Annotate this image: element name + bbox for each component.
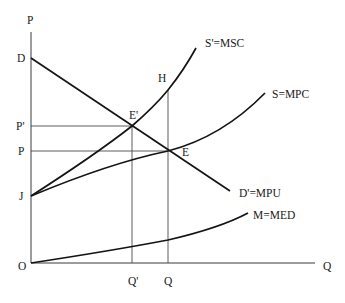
med-label: M=MED <box>253 209 295 221</box>
mpu-demand-line <box>31 58 230 191</box>
quantity-axis-label: Q <box>323 260 332 272</box>
j-intercept-label: J <box>19 190 24 202</box>
q-label: Q <box>164 275 173 287</box>
h-point-label: H <box>158 72 166 84</box>
p-prime-label: P' <box>16 120 24 132</box>
med-curve <box>31 213 248 263</box>
msc-supply-curve <box>31 48 196 196</box>
q-prime-label: Q' <box>128 275 138 287</box>
d-intercept-label: D <box>17 52 25 64</box>
externality-diagram: P Q O D P' P J Q' Q S'=MSC S=MPC D'=MPU … <box>0 0 345 303</box>
p-label: P <box>18 145 24 157</box>
msc-label: S'=MSC <box>205 37 245 49</box>
mpc-supply-curve <box>31 93 265 196</box>
mpc-label: S=MPC <box>272 88 310 100</box>
origin-label: O <box>18 260 26 272</box>
e-prime-point-label: E' <box>129 109 138 121</box>
mpu-label: D'=MPU <box>239 187 281 199</box>
e-point-label: E <box>182 146 189 158</box>
price-axis-label: P <box>27 14 33 26</box>
